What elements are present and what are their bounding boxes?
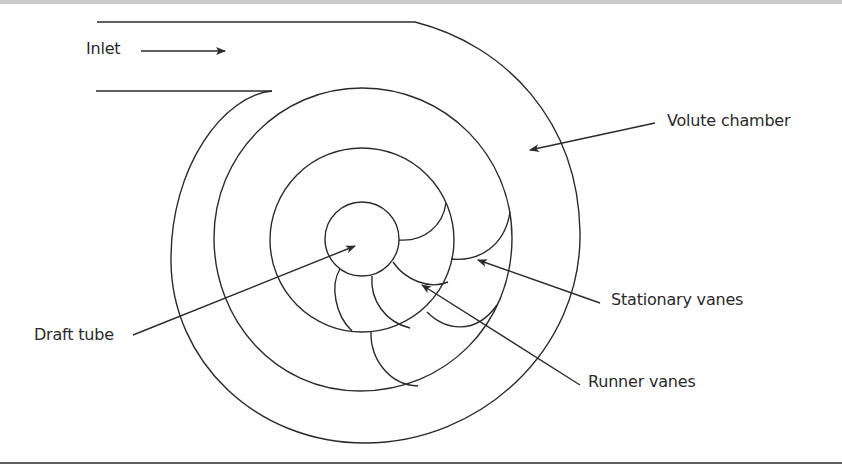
stationary-vanes [371, 212, 510, 386]
draft-tube-label: Draft tube [34, 325, 114, 344]
volute-chamber-arrow [530, 123, 655, 150]
stationary-vanes-arrow [478, 260, 600, 303]
runner-vanes-arrow [422, 285, 580, 385]
draft-tube-circle [325, 202, 399, 276]
stationary-vanes-label: Stationary vanes [611, 290, 743, 309]
runner-vanes [335, 203, 448, 331]
leader-lines [133, 51, 655, 385]
inlet-duct [96, 22, 415, 91]
runner-ring [270, 148, 454, 332]
volute-outer-spiral [171, 22, 580, 443]
turbine-diagram [0, 0, 842, 469]
runner-vanes-label: Runner vanes [588, 372, 696, 391]
inlet-label: Inlet [86, 39, 120, 58]
draft-tube-arrow [133, 246, 355, 335]
volute-chamber-label: Volute chamber [667, 111, 790, 130]
stationary-ring [214, 88, 512, 391]
